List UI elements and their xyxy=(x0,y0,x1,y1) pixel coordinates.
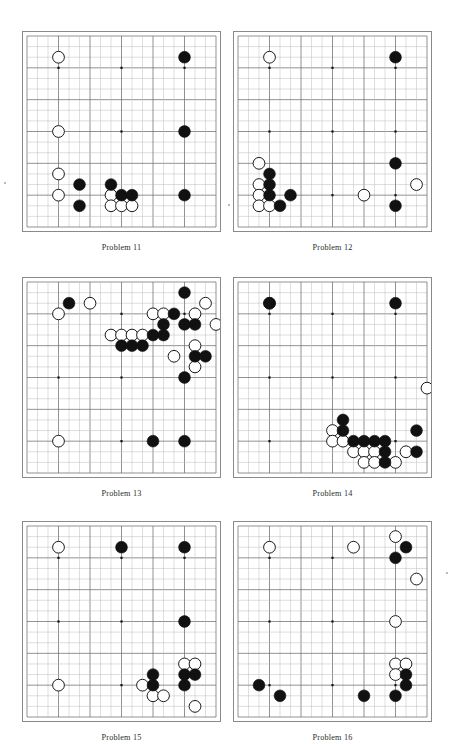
black-stone[interactable] xyxy=(348,435,360,447)
white-stone[interactable] xyxy=(53,189,65,201)
black-stone[interactable] xyxy=(358,435,370,447)
white-stone[interactable] xyxy=(189,308,201,320)
white-stone[interactable] xyxy=(53,168,65,180)
white-stone[interactable] xyxy=(327,425,339,437)
black-stone[interactable] xyxy=(116,541,128,553)
black-stone[interactable] xyxy=(179,679,191,691)
white-stone[interactable] xyxy=(189,361,201,373)
white-stone[interactable] xyxy=(253,200,265,212)
board-problem-11-grid[interactable] xyxy=(22,31,221,232)
white-stone[interactable] xyxy=(390,658,402,670)
white-stone[interactable] xyxy=(189,658,201,670)
black-stone[interactable] xyxy=(379,435,391,447)
black-stone[interactable] xyxy=(126,340,138,352)
black-stone[interactable] xyxy=(369,435,381,447)
board-problem-16-grid[interactable] xyxy=(233,521,432,722)
black-stone[interactable] xyxy=(179,435,191,447)
white-stone[interactable] xyxy=(189,340,201,352)
white-stone[interactable] xyxy=(147,690,159,702)
white-stone[interactable] xyxy=(327,435,339,447)
black-stone[interactable] xyxy=(179,126,191,138)
white-stone[interactable] xyxy=(158,308,170,320)
board-problem-14-grid[interactable] xyxy=(233,277,432,478)
white-stone[interactable] xyxy=(105,329,117,341)
black-stone[interactable] xyxy=(179,616,191,628)
black-stone[interactable] xyxy=(147,329,159,341)
black-stone[interactable] xyxy=(74,179,86,191)
white-stone[interactable] xyxy=(337,435,349,447)
black-stone[interactable] xyxy=(105,179,117,191)
black-stone[interactable] xyxy=(358,690,370,702)
black-stone[interactable] xyxy=(285,189,297,201)
white-stone[interactable] xyxy=(411,573,423,585)
black-stone[interactable] xyxy=(379,446,391,458)
black-stone[interactable] xyxy=(411,425,423,437)
black-stone[interactable] xyxy=(337,425,349,437)
white-stone[interactable] xyxy=(264,200,276,212)
white-stone[interactable] xyxy=(253,157,265,169)
white-stone[interactable] xyxy=(400,658,412,670)
white-stone[interactable] xyxy=(105,200,117,212)
white-stone[interactable] xyxy=(158,690,170,702)
black-stone[interactable] xyxy=(74,200,86,212)
black-stone[interactable] xyxy=(390,200,402,212)
black-stone[interactable] xyxy=(390,51,402,63)
black-stone[interactable] xyxy=(116,189,128,201)
white-stone[interactable] xyxy=(200,297,212,309)
white-stone[interactable] xyxy=(369,457,381,469)
white-stone[interactable] xyxy=(53,679,65,691)
white-stone[interactable] xyxy=(369,446,381,458)
white-stone[interactable] xyxy=(348,446,360,458)
black-stone[interactable] xyxy=(264,168,276,180)
black-stone[interactable] xyxy=(400,679,412,691)
white-stone[interactable] xyxy=(84,297,96,309)
black-stone[interactable] xyxy=(147,435,159,447)
white-stone[interactable] xyxy=(390,531,402,543)
black-stone[interactable] xyxy=(400,669,412,681)
white-stone[interactable] xyxy=(358,457,370,469)
black-stone[interactable] xyxy=(126,189,138,201)
white-stone[interactable] xyxy=(53,51,65,63)
black-stone[interactable] xyxy=(253,679,265,691)
black-stone[interactable] xyxy=(147,679,159,691)
white-stone[interactable] xyxy=(126,200,138,212)
black-stone[interactable] xyxy=(390,157,402,169)
white-stone[interactable] xyxy=(147,308,159,320)
black-stone[interactable] xyxy=(179,189,191,201)
black-stone[interactable] xyxy=(264,179,276,191)
black-stone[interactable] xyxy=(337,414,349,426)
board-problem-13-grid[interactable] xyxy=(22,277,221,478)
white-stone[interactable] xyxy=(264,51,276,63)
white-stone[interactable] xyxy=(411,179,423,191)
board-problem-16[interactable]: Problem 16 xyxy=(233,521,432,744)
board-problem-12-grid[interactable] xyxy=(233,31,432,232)
black-stone[interactable] xyxy=(179,319,191,331)
white-stone[interactable] xyxy=(421,382,431,394)
white-stone[interactable] xyxy=(390,669,402,681)
black-stone[interactable] xyxy=(168,308,180,320)
white-stone[interactable] xyxy=(179,658,191,670)
black-stone[interactable] xyxy=(116,340,128,352)
black-stone[interactable] xyxy=(179,372,191,384)
white-stone[interactable] xyxy=(137,679,149,691)
board-problem-14[interactable]: Problem 14 xyxy=(233,277,432,501)
black-stone[interactable] xyxy=(411,446,423,458)
black-stone[interactable] xyxy=(274,690,286,702)
white-stone[interactable] xyxy=(358,189,370,201)
white-stone[interactable] xyxy=(264,541,276,553)
white-stone[interactable] xyxy=(116,329,128,341)
white-stone[interactable] xyxy=(116,200,128,212)
black-stone[interactable] xyxy=(264,297,276,309)
black-stone[interactable] xyxy=(189,669,201,681)
black-stone[interactable] xyxy=(179,287,191,299)
board-problem-15[interactable]: Problem 15 xyxy=(22,521,221,744)
white-stone[interactable] xyxy=(253,179,265,191)
black-stone[interactable] xyxy=(274,200,286,212)
black-stone[interactable] xyxy=(179,541,191,553)
black-stone[interactable] xyxy=(390,690,402,702)
white-stone[interactable] xyxy=(253,189,265,201)
black-stone[interactable] xyxy=(189,319,201,331)
black-stone[interactable] xyxy=(137,340,149,352)
board-problem-13[interactable]: Problem 13 xyxy=(22,277,221,501)
board-problem-12[interactable]: Problem 12 xyxy=(233,31,432,255)
